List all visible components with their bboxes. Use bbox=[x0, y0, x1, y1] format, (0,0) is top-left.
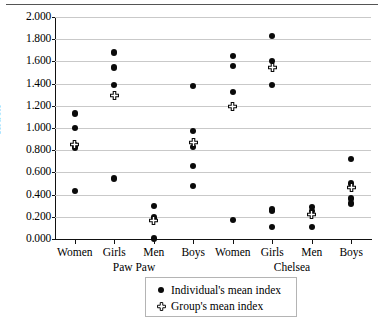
data-point-individual bbox=[269, 33, 275, 39]
scatter-chart-figure: Index 0.0000.2000.4000.6000.8001.0001.20… bbox=[0, 0, 384, 324]
data-point-individual bbox=[111, 82, 117, 88]
supergroup-label: Chelsea bbox=[274, 261, 310, 274]
data-point-group-mean bbox=[110, 91, 119, 100]
data-point-individual bbox=[348, 200, 354, 206]
x-tick-mark bbox=[312, 240, 313, 244]
x-tick-mark bbox=[193, 240, 194, 244]
y-tick-label: 0.200 bbox=[5, 211, 51, 223]
data-point-group-mean bbox=[189, 138, 198, 147]
data-point-individual bbox=[269, 224, 275, 230]
legend-item-group: Group's mean index bbox=[154, 298, 290, 314]
legend-label-group: Group's mean index bbox=[168, 300, 263, 313]
x-tick-label-girls-pawpaw: Girls bbox=[103, 246, 126, 259]
x-tick-label-women-pawpaw: Women bbox=[57, 246, 92, 259]
outline-cross-icon bbox=[154, 302, 168, 311]
y-tick-label: 1.600 bbox=[5, 55, 51, 67]
data-point-individual bbox=[269, 208, 275, 214]
y-tick-label: 2.000 bbox=[5, 11, 51, 23]
x-tick-label-women-chelsea: Women bbox=[215, 246, 250, 259]
plot-area bbox=[55, 17, 371, 239]
y-tick-label: 0.000 bbox=[5, 233, 51, 245]
y-tick-label: 1.800 bbox=[5, 33, 51, 45]
x-tick-mark bbox=[75, 240, 76, 244]
data-point-group-mean bbox=[149, 216, 158, 225]
x-axis-line bbox=[55, 239, 372, 240]
gridline bbox=[55, 150, 371, 151]
data-point-individual bbox=[230, 89, 236, 95]
x-tick-label-men-chelsea: Men bbox=[301, 246, 322, 259]
gridline bbox=[55, 217, 371, 218]
data-point-individual bbox=[190, 83, 196, 89]
y-tick-label: 1.000 bbox=[5, 122, 51, 134]
data-point-individual bbox=[151, 203, 157, 209]
data-point-individual bbox=[111, 64, 117, 70]
gridline bbox=[55, 17, 371, 18]
y-tick-label: 0.800 bbox=[5, 144, 51, 156]
data-point-individual bbox=[309, 224, 315, 230]
data-point-individual bbox=[190, 183, 196, 189]
x-tick-mark bbox=[154, 240, 155, 244]
data-point-group-mean bbox=[228, 102, 237, 111]
x-tick-label-boys-pawpaw: Boys bbox=[181, 246, 205, 259]
gridline bbox=[55, 195, 371, 196]
data-point-group-mean bbox=[268, 63, 277, 72]
x-tick-mark bbox=[114, 240, 115, 244]
data-point-individual bbox=[72, 110, 78, 116]
supergroup-label: Paw Paw bbox=[113, 261, 156, 274]
data-point-group-mean bbox=[347, 183, 356, 192]
data-point-individual bbox=[230, 217, 236, 223]
data-point-individual bbox=[190, 128, 196, 134]
data-point-individual bbox=[111, 49, 117, 55]
data-point-individual bbox=[190, 163, 196, 169]
x-tick-label-girls-chelsea: Girls bbox=[261, 246, 284, 259]
data-point-individual bbox=[111, 175, 117, 181]
data-point-individual bbox=[72, 125, 78, 131]
x-tick-mark bbox=[272, 240, 273, 244]
y-tick-label: 0.400 bbox=[5, 189, 51, 201]
data-point-individual bbox=[269, 82, 275, 88]
data-point-group-mean bbox=[70, 140, 79, 149]
top-rule-divider bbox=[6, 4, 378, 5]
gridline bbox=[55, 61, 371, 62]
gridline bbox=[55, 172, 371, 173]
y-tick-label: 1.400 bbox=[5, 78, 51, 90]
y-tick-label: 1.200 bbox=[5, 100, 51, 112]
x-tick-label-boys-chelsea: Boys bbox=[339, 246, 363, 259]
x-tick-mark bbox=[351, 240, 352, 244]
gridline bbox=[55, 128, 371, 129]
y-axis-title: Index bbox=[0, 105, 4, 135]
data-point-group-mean bbox=[307, 210, 316, 219]
data-point-individual bbox=[230, 53, 236, 59]
gridline bbox=[55, 39, 371, 40]
gridline bbox=[55, 84, 371, 85]
legend-item-individual: Individual's mean index bbox=[154, 282, 290, 298]
gridline bbox=[55, 106, 371, 107]
x-tick-mark bbox=[233, 240, 234, 244]
legend: Individual's mean index Group's mean ind… bbox=[145, 277, 297, 317]
data-point-individual bbox=[348, 156, 354, 162]
filled-circle-icon bbox=[154, 287, 168, 293]
y-tick-label: 0.600 bbox=[5, 166, 51, 178]
legend-label-individual: Individual's mean index bbox=[168, 284, 281, 297]
x-tick-label-men-pawpaw: Men bbox=[143, 246, 164, 259]
data-point-individual bbox=[230, 63, 236, 69]
data-point-individual bbox=[72, 188, 78, 194]
